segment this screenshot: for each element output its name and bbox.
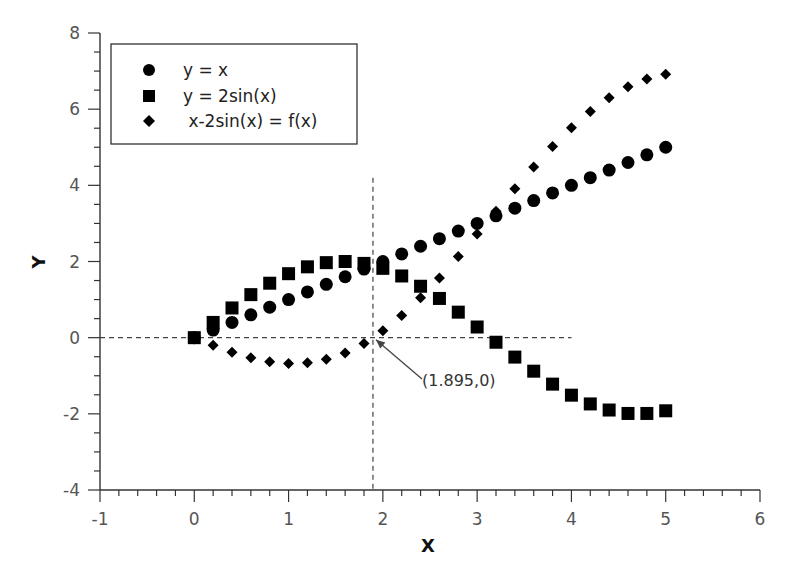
legend-label: x-2sin(x) = f(x): [183, 111, 317, 131]
circle-marker-icon: [508, 202, 521, 215]
circle-marker-icon: [226, 316, 239, 329]
series-square: [188, 255, 672, 420]
diamond-marker-icon: [566, 122, 577, 133]
square-marker-icon: [603, 404, 616, 417]
diamond-marker-icon: [227, 347, 238, 358]
diamond-marker-icon: [245, 352, 256, 363]
annotation: (1.895,0): [376, 340, 496, 390]
circle-marker-icon: [565, 179, 578, 192]
y-tick-label: 6: [69, 99, 80, 119]
circle-marker-icon: [527, 194, 540, 207]
x-tick-label: 1: [283, 509, 294, 529]
x-tick-label: 3: [472, 509, 483, 529]
diamond-marker-icon: [396, 310, 407, 321]
square-marker-icon: [490, 336, 503, 349]
square-marker-icon: [584, 397, 597, 410]
circle-marker-icon: [414, 240, 427, 253]
diamond-marker-icon: [660, 69, 671, 80]
circle-marker-icon: [546, 186, 559, 199]
diamond-marker-icon: [472, 229, 483, 240]
square-marker-icon: [339, 255, 352, 268]
diamond-marker-icon: [321, 354, 332, 365]
diamond-marker-icon: [585, 106, 596, 117]
circle-marker-icon: [659, 141, 672, 154]
diamond-marker-icon: [208, 340, 219, 351]
circle-marker-icon: [320, 278, 333, 291]
circle-marker-icon: [640, 148, 653, 161]
series-circle: [188, 141, 672, 344]
diamond-marker-icon: [641, 74, 652, 85]
square-marker-icon: [471, 321, 484, 334]
x-tick-label: -1: [92, 509, 109, 529]
y-tick-label: 0: [69, 328, 80, 348]
diamond-marker-icon: [359, 338, 370, 349]
circle-marker-icon: [143, 64, 155, 76]
y-tick-label: 2: [69, 252, 80, 272]
legend: y = x y = 2sin(x) x-2sin(x) = f(x): [111, 44, 357, 144]
diamond-marker-icon: [377, 325, 388, 336]
diamond-marker-icon: [264, 356, 275, 367]
x-tick-label: 0: [189, 509, 200, 529]
square-marker-icon: [207, 316, 220, 329]
square-marker-icon: [452, 306, 465, 319]
square-marker-icon: [244, 288, 257, 301]
reference-lines: [100, 178, 571, 490]
diamond-marker-icon: [434, 272, 445, 283]
circle-marker-icon: [622, 156, 635, 169]
legend-label: y = x: [183, 60, 228, 80]
legend-label: y = 2sin(x): [183, 86, 277, 106]
square-marker-icon: [282, 267, 295, 280]
square-marker-icon: [640, 407, 653, 420]
circle-marker-icon: [452, 225, 465, 238]
circle-marker-icon: [263, 301, 276, 314]
square-marker-icon: [414, 280, 427, 293]
circle-marker-icon: [339, 270, 352, 283]
x-tick-label: 2: [377, 509, 388, 529]
y-tick-label: 8: [69, 23, 80, 43]
y-axis-title: Y: [28, 255, 49, 270]
circle-marker-icon: [282, 293, 295, 306]
diamond-marker-icon: [283, 358, 294, 369]
square-marker-icon: [622, 407, 635, 420]
square-marker-icon: [358, 257, 371, 270]
square-marker-icon: [395, 269, 408, 282]
square-marker-icon: [565, 389, 578, 402]
diamond-marker-icon: [547, 141, 558, 152]
diamond-marker-icon: [509, 183, 520, 194]
annotation-label: (1.895,0): [422, 371, 496, 390]
diamond-marker-icon: [453, 251, 464, 262]
square-marker-icon: [659, 404, 672, 417]
x-tick-label: 4: [566, 509, 577, 529]
square-marker-icon: [433, 292, 446, 305]
x-tick-label: 6: [755, 509, 766, 529]
square-marker-icon: [527, 365, 540, 378]
x-tick-label: 5: [660, 509, 671, 529]
square-marker-icon: [320, 256, 333, 269]
circle-marker-icon: [395, 247, 408, 260]
diamond-marker-icon: [528, 162, 539, 173]
circle-marker-icon: [584, 171, 597, 184]
square-marker-icon: [508, 351, 521, 364]
annotation-arrow: [376, 340, 422, 379]
scatter-chart: -10123456-4-202468 (1.895,0) y = x y = 2…: [0, 0, 798, 578]
circle-marker-icon: [471, 217, 484, 230]
diamond-marker-icon: [604, 92, 615, 103]
circle-marker-icon: [433, 232, 446, 245]
circle-marker-icon: [301, 285, 314, 298]
square-marker-icon: [546, 378, 559, 391]
x-axis-title: X: [421, 535, 435, 556]
circle-marker-icon: [603, 164, 616, 177]
y-tick-label: -4: [63, 480, 80, 500]
diamond-marker-icon: [623, 81, 634, 92]
y-tick-label: 4: [69, 175, 80, 195]
y-tick-label: -2: [63, 404, 80, 424]
square-marker-icon: [376, 262, 389, 275]
square-marker-icon: [263, 277, 276, 290]
diamond-marker-icon: [415, 292, 426, 303]
square-marker-icon: [301, 260, 314, 273]
diamond-marker-icon: [302, 357, 313, 368]
diamond-marker-icon: [340, 347, 351, 358]
circle-marker-icon: [244, 308, 257, 321]
square-marker-icon: [226, 301, 239, 314]
square-marker-icon: [143, 90, 155, 102]
